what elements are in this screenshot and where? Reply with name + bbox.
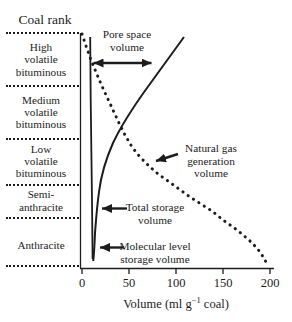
x-tick-label-100: 100	[167, 276, 186, 291]
total-storage-label: Total storage volume	[126, 201, 185, 226]
molecular-storage-label: Molecular level storage volume	[119, 240, 190, 265]
x-tick-label-0: 0	[79, 276, 85, 291]
x-axis-label-post: coal)	[201, 297, 229, 311]
x-axis-label: Volume (ml g−1 coal)	[123, 295, 229, 312]
x-axis-ticks	[82, 269, 270, 274]
x-tick-label-200: 200	[261, 276, 280, 291]
x-tick-label-50: 50	[123, 276, 136, 291]
figure-canvas: Coal rank High volatile bituminous Mediu…	[0, 0, 292, 322]
pore-space-label: Pore space volume	[103, 28, 152, 53]
natural-gas-label: Natural gas generation volume	[171, 142, 252, 180]
x-tick-label-150: 150	[214, 276, 233, 291]
x-axis-label-exponent: −1	[192, 295, 201, 305]
molecular-storage-curve	[90, 37, 92, 259]
x-axis-label-pre: Volume (ml g	[123, 297, 192, 311]
